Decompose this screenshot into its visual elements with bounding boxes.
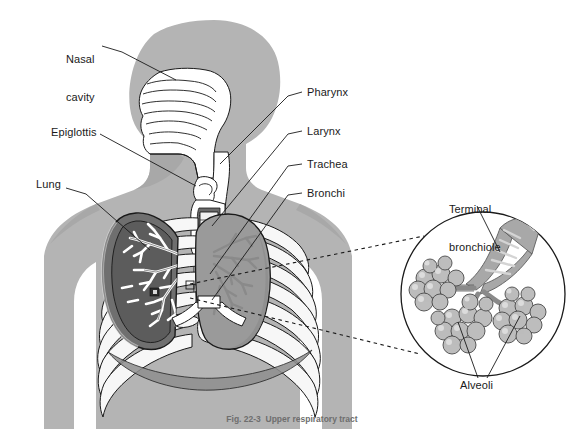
- label-pharynx: Pharynx: [307, 86, 348, 99]
- label-lung: Lung: [36, 178, 61, 191]
- label-alveoli: Alveoli: [460, 379, 493, 392]
- label-terminal-bronchiole: Terminal bronchiole: [449, 178, 501, 278]
- respiratory-system-figure: Nasal cavity Epiglottis Lung Pharynx Lar…: [0, 0, 584, 429]
- label-nasal-cavity: Nasal cavity: [66, 28, 95, 128]
- label-nasal-cavity-line2: cavity: [66, 91, 95, 104]
- label-terminal-bronchiole-line1: Terminal: [449, 203, 501, 216]
- figure-caption: Fig. 22-3 Upper respiratory tract: [0, 414, 584, 429]
- label-epiglottis: Epiglottis: [51, 126, 97, 139]
- label-larynx: Larynx: [307, 125, 341, 138]
- label-terminal-bronchiole-line2: bronchiole: [449, 241, 501, 254]
- label-trachea: Trachea: [307, 158, 348, 171]
- label-bronchi: Bronchi: [307, 187, 345, 200]
- label-nasal-cavity-line1: Nasal: [66, 53, 95, 66]
